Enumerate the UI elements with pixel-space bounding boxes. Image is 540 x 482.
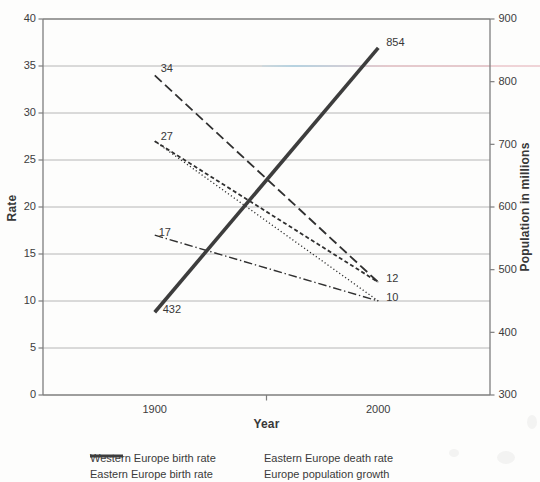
- legend-label: Europe population growth: [264, 468, 389, 480]
- y-right-tick-label: 300: [499, 388, 517, 400]
- y-left-tick-label: 40: [24, 12, 36, 24]
- y-left-tick-label: 35: [24, 59, 36, 71]
- legend-label: Eastern Europe birth rate: [90, 468, 213, 480]
- legend-key-solid-thick-line: [90, 451, 123, 461]
- y-axis-title-right: Population in millions: [518, 139, 534, 275]
- legend: Western Europe birth rateEastern Europe …: [90, 451, 393, 480]
- point-label: 27: [161, 130, 173, 142]
- x-axis-title: Year: [0, 417, 533, 432]
- series-line-eastern-europe-death-rate: [155, 141, 379, 301]
- population-rates-chart-figure: 4035302520151050900800700600500400300190…: [0, 0, 540, 482]
- y-left-tick-label: 0: [30, 388, 36, 400]
- legend-item: Europe population growth: [264, 467, 393, 480]
- point-label: 854: [386, 36, 404, 48]
- y-left-tick-label: 20: [24, 200, 36, 212]
- y-right-tick-label: 400: [499, 326, 517, 338]
- y-left-tick-label: 30: [24, 106, 36, 118]
- series-line-dash-dot: [155, 235, 379, 301]
- y-right-tick-label: 500: [499, 263, 517, 275]
- x-tick-label: 2000: [366, 403, 390, 415]
- scan-smudge: [497, 451, 515, 464]
- point-label: 17: [159, 226, 171, 238]
- x-tick-label: 1900: [143, 403, 167, 415]
- point-label: 10: [386, 291, 398, 303]
- y-right-tick-label: 700: [499, 138, 517, 150]
- legend-label: Eastern Europe death rate: [264, 452, 393, 464]
- y-left-tick-label: 5: [30, 341, 36, 353]
- y-axis-title-left: Rate: [5, 148, 21, 268]
- series-line-western-europe-birth-rate: [155, 141, 379, 282]
- y-right-tick-label: 900: [499, 12, 517, 24]
- series-line-europe-population-growth: [155, 48, 379, 312]
- scan-smudge: [527, 415, 537, 429]
- plot-area: 4035302520151050900800700600500400300190…: [0, 0, 540, 482]
- point-label: 12: [386, 272, 398, 284]
- scan-smudge: [449, 449, 459, 457]
- point-label: 432: [163, 303, 181, 315]
- point-label: 34: [161, 62, 173, 74]
- y-left-tick-label: 15: [24, 247, 36, 259]
- y-right-tick-label: 800: [499, 75, 517, 87]
- y-left-tick-label: 10: [24, 294, 36, 306]
- y-left-tick-label: 25: [24, 153, 36, 165]
- legend-item: Eastern Europe birth rate: [90, 467, 264, 480]
- legend-item: Eastern Europe death rate: [264, 451, 393, 464]
- y-right-tick-label: 600: [499, 200, 517, 212]
